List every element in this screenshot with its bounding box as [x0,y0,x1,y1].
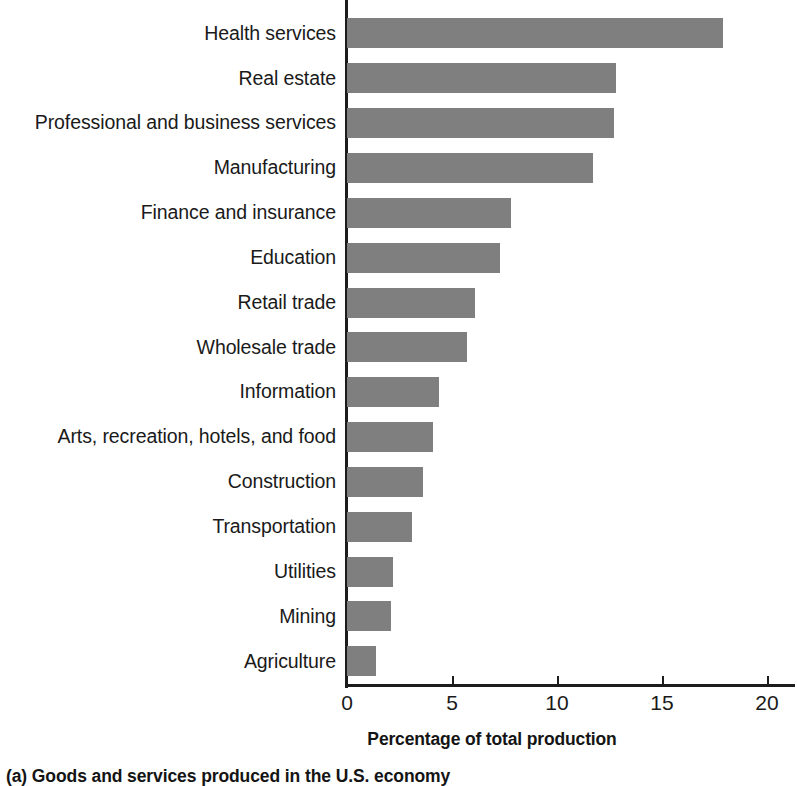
bar [347,512,412,542]
bar [347,646,376,676]
bar [347,243,500,273]
bar-row: Transportation [0,504,797,549]
bar [347,332,467,362]
bar-row: Manufacturing [0,146,797,191]
category-label: Health services [0,24,336,44]
category-label: Arts, recreation, hotels, and food [0,427,336,447]
bar-row: Health services [0,11,797,56]
bar-row: Mining [0,594,797,639]
bar [347,63,616,93]
plot-area: Health servicesReal estateProfessional a… [0,0,797,700]
x-axis-tick [557,676,559,687]
bar [347,288,475,318]
bar [347,601,391,631]
category-label: Retail trade [0,293,336,313]
category-label: Transportation [0,517,336,537]
category-label: Wholesale trade [0,338,336,358]
bar-row: Agriculture [0,639,797,684]
category-label: Professional and business services [0,113,336,133]
x-axis-tick [662,676,664,687]
bar-row: Education [0,235,797,280]
bar-row: Utilities [0,549,797,594]
bar-row: Wholesale trade [0,325,797,370]
bar [347,18,723,48]
x-axis-tick-label: 10 [527,692,587,713]
bar-row: Information [0,370,797,415]
x-axis-tick-label: 5 [422,692,482,713]
category-label: Real estate [0,69,336,89]
bar [347,557,393,587]
category-label: Mining [0,607,336,627]
figure-caption: (a) Goods and services produced in the U… [6,766,450,786]
category-label: Information [0,382,336,402]
category-label: Education [0,248,336,268]
x-axis-title: Percentage of total production [347,729,637,750]
bar-row: Arts, recreation, hotels, and food [0,415,797,460]
x-axis-tick-label: 20 [737,692,797,713]
bar [347,153,593,183]
bar [347,467,423,497]
category-label: Manufacturing [0,158,336,178]
bar [347,198,511,228]
x-axis-tick-label: 0 [317,692,377,713]
x-axis-tick-label: 15 [632,692,692,713]
category-label: Construction [0,472,336,492]
bar-row: Retail trade [0,280,797,325]
bar-chart-figure: Health servicesReal estateProfessional a… [0,0,797,786]
x-axis-tick [452,676,454,687]
category-label: Utilities [0,562,336,582]
bar-row: Finance and insurance [0,190,797,235]
bar [347,377,439,407]
bar-rows: Health servicesReal estateProfessional a… [0,0,797,686]
bar-row: Professional and business services [0,101,797,146]
bar-row: Real estate [0,56,797,101]
bar-row: Construction [0,460,797,505]
category-label: Finance and insurance [0,203,336,223]
bar [347,422,433,452]
bar [347,108,614,138]
category-label: Agriculture [0,652,336,672]
x-axis-tick [767,676,769,687]
